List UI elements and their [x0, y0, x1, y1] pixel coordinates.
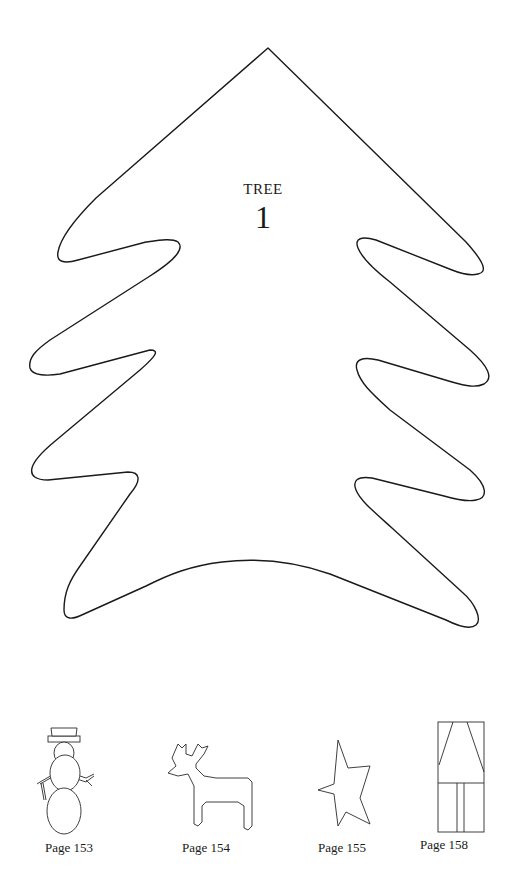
thumbnail-label-reindeer: Page 154: [182, 840, 230, 856]
thumbnail-label-star: Page 155: [318, 840, 366, 856]
pattern-title: TREE: [218, 181, 308, 198]
thumbnail-label-house: Page 158: [420, 837, 468, 853]
thumbnail-house: Page 158: [420, 680, 510, 870]
thumbnail-label-snowman: Page 153: [45, 840, 93, 856]
thumbnail-snowman: Page 153: [30, 670, 140, 870]
thumbnail-star: Page 155: [300, 740, 400, 870]
thumbnail-reindeer: Page 154: [160, 700, 270, 870]
pattern-number: 1: [218, 199, 308, 235]
